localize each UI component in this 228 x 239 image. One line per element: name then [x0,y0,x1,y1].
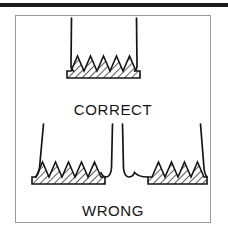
needle-wrong-right-inner [123,124,148,177]
needle-correct-left [71,18,74,71]
serrated-block-wrong-right [148,162,207,184]
correct-diagram: CORRECT [67,18,152,118]
figure-frame: CORRECT WRONG [15,15,211,223]
wrong-diagram: WRONG [32,124,207,219]
top-horizontal-rule [0,3,228,7]
caption-wrong: WRONG [82,202,144,219]
caption-correct: CORRECT [74,101,152,118]
diagram-canvas: CORRECT WRONG [16,16,210,222]
needle-correct-right [135,18,138,71]
serrated-block-wrong-left [32,162,105,184]
figure-root: CORRECT WRONG [0,0,228,239]
serrated-block-correct [67,56,140,78]
needle-wrong-right-outer [201,124,208,177]
needle-wrong-left-inner [101,124,113,177]
